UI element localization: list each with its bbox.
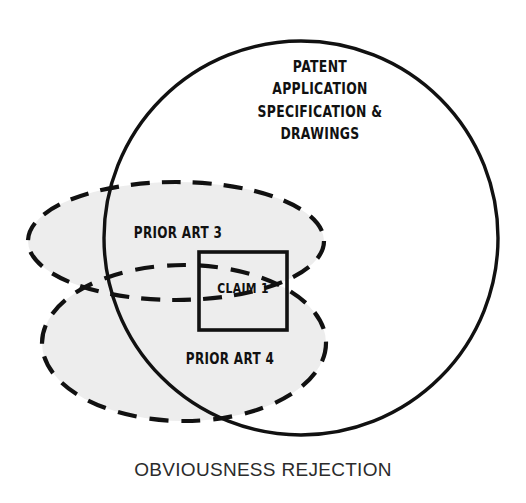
diagram-caption: OBVIOUSNESS REJECTION <box>0 459 526 481</box>
venn-diagram-canvas <box>0 0 526 503</box>
obviousness-rejection-diagram: PATENT APPLICATION SPECIFICATION & DRAWI… <box>0 0 526 503</box>
